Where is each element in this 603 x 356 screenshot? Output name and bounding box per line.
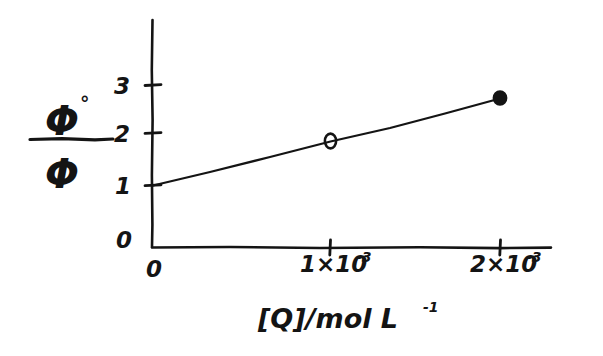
- x-tick-label-2e-3-exponent: -3: [526, 249, 542, 265]
- fraction-bar: [30, 139, 113, 140]
- x-axis-title-text: [Q]/mol L: [257, 303, 398, 334]
- phi-denominator-glyph: Φ: [45, 151, 79, 197]
- x-axis-title-exponent: -1: [423, 299, 439, 315]
- stern-volmer-plot: 3 2 1 0 0 1×10 -3 2×10 -3 Φ ° Φ [Q]/mol …: [0, 0, 603, 356]
- y-tick-3: [145, 85, 161, 86]
- y-tick-label-0: 0: [116, 227, 132, 253]
- y-tick-label-1: 1: [115, 173, 131, 199]
- x-axis-line: [152, 247, 551, 248]
- x-tick-label-1e-3-group: 1×10 -3: [300, 249, 372, 277]
- y-axis-title-numerator: Φ °: [45, 92, 90, 144]
- axes-group: [152, 20, 551, 248]
- y-tick-label-3: 3: [114, 73, 130, 99]
- x-tick-label-1e-3-exponent: -3: [356, 249, 372, 265]
- data-line: [153, 99, 500, 186]
- data-point-filled-circle: [494, 91, 506, 104]
- y-axis-title: Φ ° Φ: [30, 92, 113, 197]
- x-tick-label-2e-3-group: 2×10 -3: [470, 249, 542, 277]
- x-tick-label-0: 0: [146, 256, 162, 282]
- y-tick-label-2: 2: [114, 121, 130, 147]
- y-tick-2: [145, 133, 161, 134]
- x-axis-title: [Q]/mol L -1: [257, 299, 439, 334]
- degree-superscript-icon: °: [80, 92, 90, 114]
